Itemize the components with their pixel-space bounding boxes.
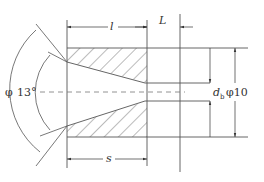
nozzle-diagram: l L s d b φ10 φ 13° [0,0,264,182]
label-L: L [158,14,166,27]
label-db: d [213,86,220,99]
lower-section-hatch [67,101,147,137]
label-s: s [106,152,112,165]
label-phi10: φ10 [226,86,248,99]
label-l: l [110,20,114,33]
label-phi-angle: φ [5,86,13,99]
label-db-subscript: b [220,93,225,101]
label-angle: 13° [17,86,37,99]
